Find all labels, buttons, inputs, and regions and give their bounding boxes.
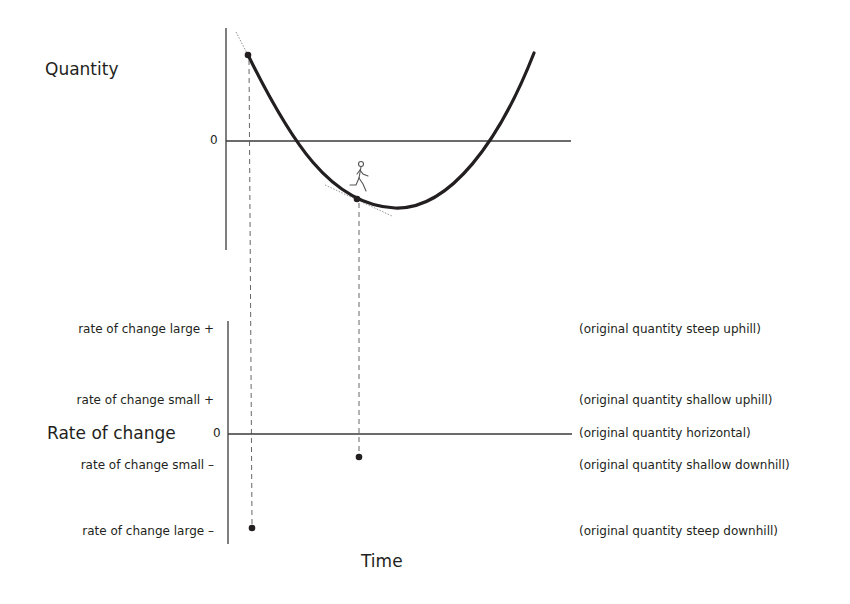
rate-point-a [249,525,256,532]
interpretation-shallow-uphill: (original quantity shallow uphill) [579,393,773,407]
interpretation-steep-downhill: (original quantity steep downhill) [579,524,778,538]
rate-axis-label: Rate of change [47,423,176,443]
point-a-marker [245,52,252,59]
time-axis-label: Time [361,551,403,571]
rate-point-b [356,454,363,461]
quantity-axis-label: Quantity [45,59,118,79]
interpretation-shallow-downhill: (original quantity shallow downhill) [579,458,790,472]
rate-zero-label: 0 [213,426,221,440]
interpretation-horizontal: (original quantity horizontal) [579,426,751,440]
quantity-curve [248,53,534,208]
drop-line-a [249,60,252,524]
level-label-large-negative: rate of change large – [82,524,214,538]
level-label-large-positive: rate of change large + [78,322,214,336]
walking-person-icon [350,162,368,192]
level-label-small-positive: rate of change small + [77,393,214,407]
point-b-marker [354,196,361,203]
interpretation-steep-uphill: (original quantity steep uphill) [579,322,761,336]
quantity-zero-label: 0 [210,133,218,147]
level-label-small-negative: rate of change small – [81,458,214,472]
diagram-figure [0,0,850,604]
